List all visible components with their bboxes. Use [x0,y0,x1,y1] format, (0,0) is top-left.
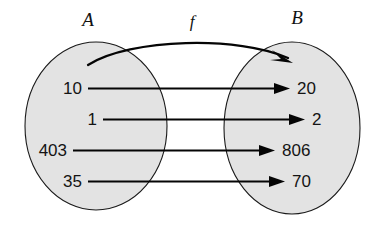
set-b-label: B [291,7,303,28]
diagram-canvas: A B f 10 20 1 2 403 806 35 70 [0,0,376,227]
domain-element-0: 10 [63,79,82,98]
domain-element-1: 1 [88,110,97,129]
codomain-element-3: 70 [292,172,311,191]
codomain-element-1: 2 [312,110,321,129]
codomain-element-2: 806 [282,141,310,160]
set-a-label: A [80,9,94,30]
domain-element-3: 35 [63,172,82,191]
function-mapping-diagram: A B f 10 20 1 2 403 806 35 70 [0,0,376,227]
function-label: f [190,12,197,31]
domain-element-2: 403 [39,141,67,160]
codomain-element-0: 20 [297,79,316,98]
